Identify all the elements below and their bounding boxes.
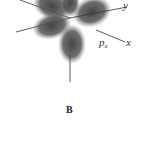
figure-caption: B (66, 105, 73, 115)
orbital-label: px (99, 37, 108, 50)
orbital-diagram (0, 0, 147, 141)
x-axis-label: x (126, 37, 131, 48)
orbital-lobes (28, 0, 116, 64)
orbital-label-subscript: x (105, 42, 108, 50)
y-axis-label: y (123, 0, 128, 11)
